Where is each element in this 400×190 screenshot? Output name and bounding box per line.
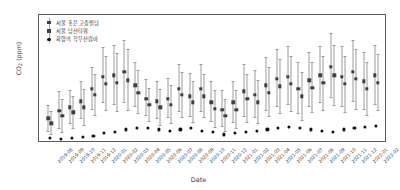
- data-point: [375, 124, 378, 127]
- x-tick-mark: [365, 141, 366, 142]
- data-point: [343, 82, 346, 85]
- error-bar-cap: [177, 111, 180, 112]
- error-bar-cap: [166, 117, 169, 118]
- data-point: [72, 111, 75, 114]
- legend-marker-icon: [45, 18, 54, 26]
- data-point: [157, 128, 160, 131]
- error-bar-cap: [93, 74, 96, 75]
- x-tick-mark: [83, 141, 84, 142]
- error-bar-cap: [354, 109, 357, 110]
- data-point: [233, 132, 236, 135]
- data-point: [210, 101, 213, 104]
- error-bar-cap: [297, 113, 300, 114]
- error-bar-cap: [177, 64, 180, 65]
- error-bar-cap: [126, 49, 129, 50]
- error-bar-cap: [286, 104, 289, 105]
- legend-marker-icon: [45, 35, 54, 43]
- error-bar-cap: [145, 79, 148, 80]
- x-tick-mark: [235, 141, 236, 142]
- error-bar-cap: [257, 80, 260, 81]
- legend-item-2[interactable]: 화양의 학무산림아: [45, 35, 99, 43]
- error-bar-cap: [311, 62, 314, 63]
- error-bar-cap: [289, 111, 292, 112]
- y-axis-title: CO2 (ppm): [15, 19, 22, 99]
- data-point: [90, 87, 93, 90]
- legend-item-0[interactable]: 서울 홍은 고층빌딩: [45, 18, 99, 26]
- error-bar-cap: [340, 46, 343, 47]
- error-bar-cap: [112, 104, 115, 105]
- error-bar-cap: [300, 72, 303, 73]
- data-point: [333, 74, 336, 77]
- error-bar-cap: [275, 106, 278, 107]
- error-bar-cap: [330, 33, 333, 34]
- error-bar-cap: [191, 81, 194, 82]
- x-tick-mark: [289, 141, 290, 142]
- data-point: [126, 79, 129, 82]
- data-point: [159, 106, 162, 109]
- error-bar-cap: [199, 64, 202, 65]
- y-tick-mark: [38, 30, 39, 31]
- data-point: [123, 70, 126, 73]
- data-point: [82, 106, 85, 109]
- error-bar-cap: [221, 126, 224, 127]
- error-bar-cap: [253, 70, 256, 71]
- legend-label: 서울 홍은 고층빌딩: [56, 19, 99, 26]
- error-bar-cap: [257, 123, 260, 124]
- error-bar-cap: [232, 122, 235, 123]
- data-point: [222, 133, 225, 136]
- legend-label: 서울 남산타워: [56, 27, 88, 34]
- data-point: [48, 136, 51, 139]
- data-point: [168, 129, 171, 132]
- x-tick-mark: [354, 141, 355, 142]
- data-point: [286, 75, 289, 78]
- error-bar-cap: [322, 110, 325, 111]
- error-bar-cap: [47, 105, 50, 106]
- data-point: [57, 109, 60, 112]
- data-point: [169, 103, 172, 106]
- error-bar-cap: [180, 72, 183, 73]
- error-bar-cap: [83, 125, 86, 126]
- error-bar-cap: [235, 90, 238, 91]
- data-point: [266, 128, 269, 131]
- x-tick-mark: [104, 141, 105, 142]
- data-point: [353, 127, 356, 130]
- error-bar-cap: [278, 113, 281, 114]
- error-bar-cap: [243, 64, 246, 65]
- error-bar-cap: [351, 40, 354, 41]
- error-bar-cap: [224, 131, 227, 132]
- error-bar-cap: [156, 118, 159, 119]
- data-point: [320, 129, 323, 132]
- error-bar-cap: [188, 73, 191, 74]
- error-bar-cap: [101, 102, 104, 103]
- error-bar-cap: [115, 53, 118, 54]
- data-point: [340, 75, 343, 78]
- error-bar-cap: [180, 117, 183, 118]
- error-bar-cap: [362, 109, 365, 110]
- error-bar-cap: [340, 106, 343, 107]
- error-bar-cap: [79, 118, 82, 119]
- error-bar-cap: [344, 112, 347, 113]
- data-point: [264, 83, 267, 86]
- data-point: [365, 87, 368, 90]
- error-bar-cap: [365, 115, 368, 116]
- error-bar-cap: [365, 62, 368, 63]
- data-point: [224, 114, 227, 117]
- error-bar-cap: [221, 90, 224, 91]
- legend-item-1[interactable]: 서울 남산타워: [45, 26, 99, 34]
- error-bar-cap: [264, 57, 267, 58]
- data-point: [112, 74, 115, 77]
- x-tick-mark: [333, 141, 334, 142]
- error-bar-cap: [50, 134, 53, 135]
- error-bar-cap: [58, 91, 61, 92]
- error-bar-cap: [213, 127, 216, 128]
- data-point: [47, 117, 50, 120]
- error-bar-cap: [166, 78, 169, 79]
- data-point: [124, 128, 127, 131]
- data-point: [342, 128, 345, 131]
- error-bar-cap: [308, 52, 311, 53]
- error-bar-cap: [246, 122, 249, 123]
- error-bar-cap: [156, 81, 159, 82]
- data-point: [191, 101, 194, 104]
- error-bar-cap: [112, 45, 115, 46]
- data-point: [81, 135, 84, 138]
